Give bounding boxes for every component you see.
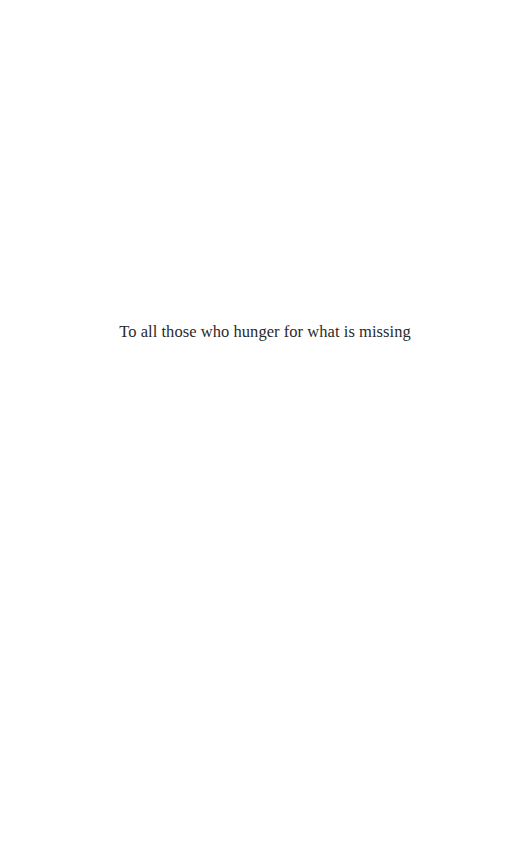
book-page: To all those who hunger for what is miss…: [0, 0, 530, 859]
dedication-text: To all those who hunger for what is miss…: [0, 322, 530, 342]
